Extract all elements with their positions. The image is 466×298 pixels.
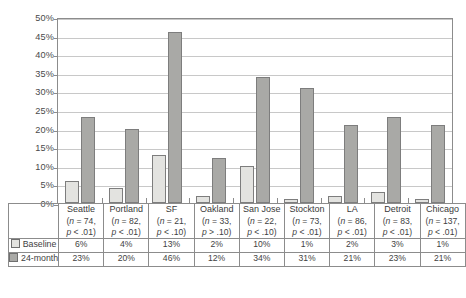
city-name: Stockton xyxy=(285,204,329,216)
legend-swatch-icon xyxy=(9,253,18,262)
p-value: p < .01) xyxy=(104,227,148,238)
y-axis-tick-label: 10% xyxy=(35,162,54,172)
p-value: p < .01) xyxy=(330,227,374,238)
bar-group xyxy=(408,19,452,203)
bar-24-month xyxy=(344,125,358,203)
p-value: p < .01) xyxy=(421,227,465,238)
table-cell-value: 2% xyxy=(330,238,375,252)
table-cell-value: 2% xyxy=(194,238,239,252)
table-cell-value: 10% xyxy=(239,238,284,252)
table-cell-value: 6% xyxy=(59,238,104,252)
p-value: p < .10) xyxy=(240,227,284,238)
data-table-wrapper: Seattle(n = 74,p < .01)Portland(n = 82,p… xyxy=(8,203,455,267)
plot-area xyxy=(57,18,453,204)
y-axis-tickmark xyxy=(54,93,58,94)
bar-24-month xyxy=(431,125,445,203)
bar-group xyxy=(277,19,321,203)
y-axis-tick-label: 15% xyxy=(35,143,54,153)
p-value: p < .01) xyxy=(375,227,419,238)
y-axis-tick-label: 50% xyxy=(35,13,54,23)
bar-24-month xyxy=(256,77,270,203)
bar-baseline xyxy=(240,166,254,203)
bar-group xyxy=(364,19,408,203)
legend-label: Baseline xyxy=(23,239,57,249)
city-name: Seattle xyxy=(59,204,103,216)
sample-size: (n = 22, xyxy=(240,216,284,227)
y-axis-tick-label: 30% xyxy=(35,87,54,97)
y-axis-tick-label: 35% xyxy=(35,69,54,79)
y-axis-tickmark xyxy=(54,38,58,39)
city-name: Detroit xyxy=(375,204,419,216)
p-value: p < .01) xyxy=(285,227,329,238)
bar-group xyxy=(146,19,190,203)
sample-size: (n = 73, xyxy=(285,216,329,227)
column-header-oakland: Oakland(n = 33,p > .10) xyxy=(194,204,239,239)
legend-item-month24: 24-month xyxy=(9,252,59,266)
column-header-portland: Portland(n = 82,p < .01) xyxy=(104,204,149,239)
column-header-seattle: Seattle(n = 74,p < .01) xyxy=(59,204,104,239)
table-cell-value: 21% xyxy=(420,252,465,266)
legend-label: 24-month xyxy=(21,253,58,263)
y-axis-tickmark xyxy=(54,186,58,187)
table-cell-value: 1% xyxy=(284,238,329,252)
bar-group xyxy=(58,19,102,203)
city-name: Portland xyxy=(104,204,148,216)
bar-24-month xyxy=(168,32,182,203)
chart-area: 50%45%40%35%30%25%20%15%10%5%0% xyxy=(0,0,463,212)
y-axis-tick-label: 5% xyxy=(41,180,54,190)
city-name: San Jose xyxy=(240,204,284,216)
table-cell-value: 1% xyxy=(420,238,465,252)
bar-baseline xyxy=(196,196,210,203)
bar-24-month xyxy=(212,158,226,203)
city-name: LA xyxy=(330,204,374,216)
table-cell-value: 31% xyxy=(284,252,329,266)
sample-size: (n = 82, xyxy=(104,216,148,227)
column-header-la: LA(n = 86,p < .01) xyxy=(330,204,375,239)
y-axis-tick-label: 45% xyxy=(35,32,54,42)
y-axis-tickmark xyxy=(54,112,58,113)
bar-24-month xyxy=(125,129,139,203)
city-name: SF xyxy=(149,204,193,216)
y-axis-tickmark xyxy=(54,75,58,76)
sample-size: (n = 137, xyxy=(421,216,465,227)
table-cell-value: 46% xyxy=(149,252,194,266)
legend-item-baseline: Baseline xyxy=(9,238,59,252)
y-axis-tickmark xyxy=(54,168,58,169)
table-cell-value: 4% xyxy=(104,238,149,252)
column-header-san-jose: San Jose(n = 22,p < .10) xyxy=(239,204,284,239)
y-axis-tickmark xyxy=(54,131,58,132)
sample-size: (n = 21, xyxy=(149,216,193,227)
bar-24-month xyxy=(81,117,95,203)
bar-24-month xyxy=(387,117,401,203)
table-corner-cell xyxy=(9,204,59,239)
sample-size: (n = 33, xyxy=(195,216,239,227)
p-value: p < .10) xyxy=(149,227,193,238)
table-header-row: Seattle(n = 74,p < .01)Portland(n = 82,p… xyxy=(9,204,466,239)
y-axis-tickmark xyxy=(54,56,58,57)
sample-size: (n = 74, xyxy=(59,216,103,227)
sample-size: (n = 83, xyxy=(375,216,419,227)
bar-24-month xyxy=(300,88,314,203)
column-header-stockton: Stockton(n = 73,p < .01) xyxy=(284,204,329,239)
data-table: Seattle(n = 74,p < .01)Portland(n = 82,p… xyxy=(8,203,466,267)
city-name: Oakland xyxy=(195,204,239,216)
bar-group xyxy=(102,19,146,203)
table-row: Baseline6%4%13%2%10%1%2%3%1% xyxy=(9,238,466,252)
bar-group xyxy=(321,19,365,203)
column-header-detroit: Detroit(n = 83,p < .01) xyxy=(375,204,420,239)
table-cell-value: 34% xyxy=(239,252,284,266)
y-axis-tickmark xyxy=(54,19,58,20)
y-axis-tickmark xyxy=(54,149,58,150)
bar-group xyxy=(189,19,233,203)
bar-baseline xyxy=(109,188,123,203)
data-table-body: Seattle(n = 74,p < .01)Portland(n = 82,p… xyxy=(9,204,466,267)
bar-baseline xyxy=(152,155,166,203)
table-cell-value: 12% xyxy=(194,252,239,266)
table-cell-value: 13% xyxy=(149,238,194,252)
column-header-sf: SF(n = 21,p < .10) xyxy=(149,204,194,239)
y-axis-tick-label: 20% xyxy=(35,125,54,135)
y-axis: 50%45%40%35%30%25%20%15%10%5%0% xyxy=(8,14,54,204)
column-header-chicago: Chicago(n = 137,p < .01) xyxy=(420,204,465,239)
table-cell-value: 21% xyxy=(330,252,375,266)
